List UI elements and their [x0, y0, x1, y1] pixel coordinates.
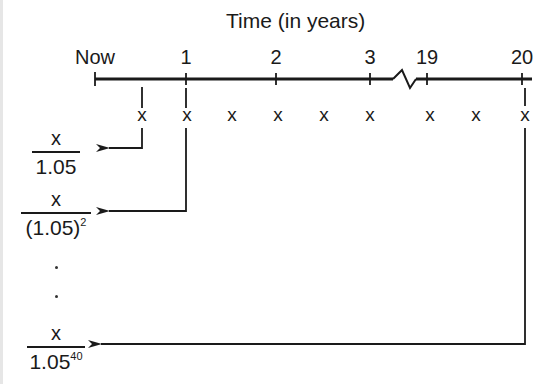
- present-value-year-40: x 1.0540: [27, 322, 85, 374]
- payment-mark: x: [520, 105, 530, 125]
- arrow-year-1: [109, 128, 142, 148]
- tick-label-19: 19: [416, 47, 438, 67]
- ellipsis-dot: [55, 295, 58, 298]
- tick-label-20: 20: [511, 47, 533, 67]
- numerator: x: [27, 322, 85, 344]
- numerator: x: [21, 188, 91, 210]
- axis-title: Time (in years): [226, 11, 365, 31]
- payment-mark: x: [227, 105, 237, 125]
- tick-label-1: 1: [180, 47, 191, 67]
- fraction-bar: [21, 212, 91, 214]
- tick-label-now: Now: [75, 47, 115, 67]
- payment-mark: x: [319, 105, 329, 125]
- arrow-year-40: [101, 128, 525, 344]
- tick-label-2: 2: [270, 47, 281, 67]
- payment-mark: x: [471, 105, 481, 125]
- payment-mark: x: [425, 105, 435, 125]
- payment-mark: x: [365, 105, 375, 125]
- timeline-axis: [95, 70, 532, 88]
- discount-arrows: [101, 128, 525, 344]
- drop-lines: [142, 87, 525, 108]
- present-value-year-2: x (1.05)2: [21, 188, 91, 240]
- present-value-year-1: x 1.05: [32, 127, 80, 179]
- denominator: 1.05: [32, 155, 80, 179]
- fraction-bar: [32, 151, 80, 153]
- fraction-bar: [27, 346, 85, 348]
- payment-mark: x: [137, 105, 147, 125]
- numerator: x: [32, 127, 80, 149]
- ellipsis-dot: [55, 266, 58, 269]
- arrow-year-2: [109, 128, 186, 211]
- denominator: 1.0540: [27, 350, 85, 374]
- payment-mark: x: [182, 105, 192, 125]
- payment-mark: x: [273, 105, 283, 125]
- denominator: (1.05)2: [21, 216, 91, 240]
- tick-label-3: 3: [364, 47, 375, 67]
